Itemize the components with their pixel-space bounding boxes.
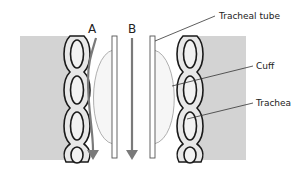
label-tracheal-tube: Tracheal tube	[218, 11, 280, 21]
cuff-left	[93, 50, 113, 144]
tube-wall-right	[150, 36, 155, 158]
label-b: B	[128, 22, 136, 36]
tube-wall-left	[112, 36, 117, 158]
tracheal-tube-diagram: A B Tracheal tube Cuff Trachea	[0, 0, 305, 174]
cuff-right	[154, 50, 174, 144]
label-cuff: Cuff	[256, 61, 275, 71]
arrow-b	[126, 38, 138, 160]
label-trachea: Trachea	[255, 98, 291, 108]
label-a: A	[88, 22, 97, 36]
